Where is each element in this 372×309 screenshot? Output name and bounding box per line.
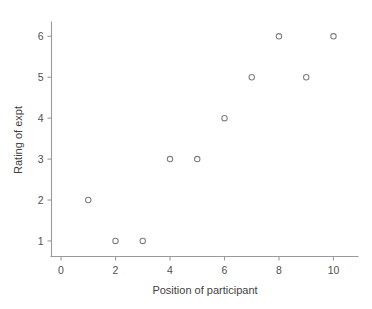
data-point-marker xyxy=(113,238,118,243)
x-tick-label: 6 xyxy=(222,264,228,276)
x-tick-label: 0 xyxy=(58,264,64,276)
data-points-group xyxy=(86,34,337,244)
scatter-plot-figure: 123456 0246810 Position of participant R… xyxy=(0,0,372,309)
y-ticks-group: 123456 xyxy=(38,30,52,247)
x-tick-label: 4 xyxy=(167,264,173,276)
data-point-marker xyxy=(276,34,281,39)
data-point-marker xyxy=(140,238,145,243)
x-tick-label: 2 xyxy=(113,264,119,276)
data-point-marker xyxy=(304,75,309,80)
axes-group xyxy=(51,22,358,257)
x-axis-title: Position of participant xyxy=(152,284,257,296)
plot-canvas: 123456 0246810 Position of participant R… xyxy=(0,0,372,309)
data-point-marker xyxy=(331,34,336,39)
y-tick-label: 2 xyxy=(38,194,44,206)
x-tick-label: 10 xyxy=(328,264,340,276)
data-point-marker xyxy=(249,75,254,80)
y-tick-label: 3 xyxy=(38,153,44,165)
y-tick-label: 6 xyxy=(38,30,44,42)
data-point-marker xyxy=(86,197,91,202)
data-point-marker xyxy=(167,156,172,161)
x-ticks-group: 0246810 xyxy=(58,257,339,276)
y-axis-title: Rating of expt xyxy=(12,106,24,174)
data-point-marker xyxy=(195,156,200,161)
y-tick-label: 5 xyxy=(38,71,44,83)
y-tick-label: 1 xyxy=(38,235,44,247)
y-tick-label: 4 xyxy=(38,112,44,124)
data-point-marker xyxy=(222,115,227,120)
x-tick-label: 8 xyxy=(276,264,282,276)
